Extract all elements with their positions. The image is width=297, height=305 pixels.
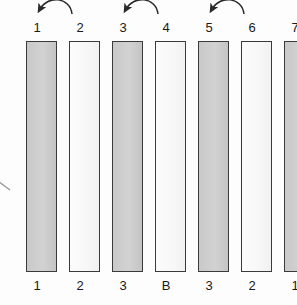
bar-3 <box>112 41 143 272</box>
top-label-3: 3 <box>107 21 139 35</box>
top-label-6: 6 <box>236 21 268 35</box>
arrow-6-to-5-icon <box>212 0 244 14</box>
bottom-label-6: 2 <box>236 279 268 293</box>
bar-4 <box>155 41 186 272</box>
arrow-left-edge-icon <box>0 178 10 190</box>
bottom-label-2: 2 <box>64 279 96 293</box>
bottom-label-4: B <box>150 279 182 293</box>
bottom-label-3: 3 <box>107 279 139 293</box>
layer-stack-diagram: 1 2 3 4 5 6 7 1 2 3 B 3 2 1 <box>0 0 297 305</box>
top-label-4: 4 <box>150 21 182 35</box>
top-label-2: 2 <box>64 21 96 35</box>
bar-5 <box>198 41 229 272</box>
arrow-2-to-1-icon <box>40 0 72 14</box>
top-label-1: 1 <box>21 21 53 35</box>
bottom-label-1: 1 <box>21 279 53 293</box>
bar-7 <box>284 41 297 272</box>
bottom-label-5: 3 <box>193 279 225 293</box>
bar-1 <box>26 41 57 272</box>
bar-6 <box>241 41 272 272</box>
bar-2 <box>69 41 100 272</box>
arrow-4-to-3-icon <box>126 0 158 14</box>
top-label-7: 7 <box>279 21 297 35</box>
bottom-label-7: 1 <box>279 279 297 293</box>
top-label-5: 5 <box>193 21 225 35</box>
